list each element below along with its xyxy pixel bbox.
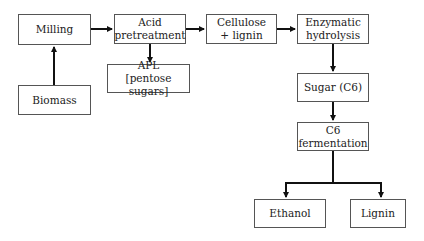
node-apl-label-2: [pentose sugars] <box>108 72 189 98</box>
node-milling-label: Milling <box>36 23 74 36</box>
node-acid-label-2: pretreatment <box>114 29 185 42</box>
node-ethanol-label: Ethanol <box>269 207 310 220</box>
node-c6-fermentation: C6 fermentation <box>297 122 369 151</box>
node-apl-label-1: APL <box>108 59 189 72</box>
node-acid-pretreatment: Acid pretreatment <box>114 14 186 44</box>
node-lignin: Lignin <box>350 199 406 228</box>
node-enzymatic-label-2: hydrolysis <box>305 29 361 42</box>
node-sugar-label: Sugar (C6) <box>304 81 362 94</box>
node-cellulose-lignin: Cellulose + lignin <box>206 14 277 44</box>
node-lignin-label: Lignin <box>361 207 395 220</box>
arrow-c6-to-ethanol <box>286 183 333 197</box>
node-cellulose-label-1: Cellulose <box>217 16 266 29</box>
arrow-c6-to-lignin <box>333 183 381 197</box>
node-biomass: Biomass <box>18 85 91 115</box>
node-enzymatic-label-1: Enzymatic <box>305 16 361 29</box>
node-apl: APL [pentose sugars] <box>107 64 190 93</box>
node-biomass-label: Biomass <box>32 94 76 107</box>
node-ethanol: Ethanol <box>254 199 326 228</box>
node-sugar-c6: Sugar (C6) <box>297 73 369 102</box>
node-c6-label-1: C6 <box>298 124 367 137</box>
node-cellulose-label-2: + lignin <box>217 29 266 42</box>
node-acid-label-1: Acid <box>114 16 185 29</box>
node-c6-label-2: fermentation <box>298 137 367 150</box>
node-enzymatic-hydrolysis: Enzymatic hydrolysis <box>297 14 369 44</box>
node-milling: Milling <box>18 14 91 45</box>
